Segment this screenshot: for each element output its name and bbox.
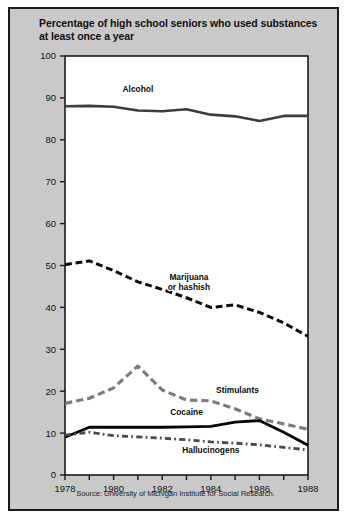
series-label-marijuana-or-hashish: Marijuana: [169, 272, 208, 282]
y-tick-label: 80: [45, 134, 56, 145]
y-tick-label: 20: [45, 386, 56, 397]
y-tick-label: 100: [40, 50, 56, 61]
series-label-hallucinogens: Hallucinogens: [182, 445, 240, 455]
line-chart-svg: 0102030405060708090100 19781980198219841…: [10, 9, 341, 513]
y-tick-label: 0: [51, 469, 56, 480]
source-note: Source: University of Michigan Institute…: [10, 489, 341, 498]
plot-area: 0102030405060708090100 19781980198219841…: [10, 9, 341, 513]
y-tick-label: 50: [45, 260, 56, 271]
chart-figure: Percentage of high school seniors who us…: [8, 7, 339, 511]
series-label-cocaine: Cocaine: [170, 407, 203, 417]
y-tick-label: 10: [45, 428, 56, 439]
series-label-alcohol: Alcohol: [123, 84, 154, 94]
series-label-stimulants: Stimulants: [216, 385, 259, 395]
y-tick-label: 60: [45, 218, 56, 229]
y-tick-label: 90: [45, 92, 56, 103]
y-tick-label: 40: [45, 302, 56, 313]
y-tick-label: 70: [45, 176, 56, 187]
y-tick-label: 30: [45, 344, 56, 355]
series-label-marijuana-or-hashish: or hashish: [168, 282, 210, 292]
y-axis-labels: 0102030405060708090100: [40, 50, 56, 480]
